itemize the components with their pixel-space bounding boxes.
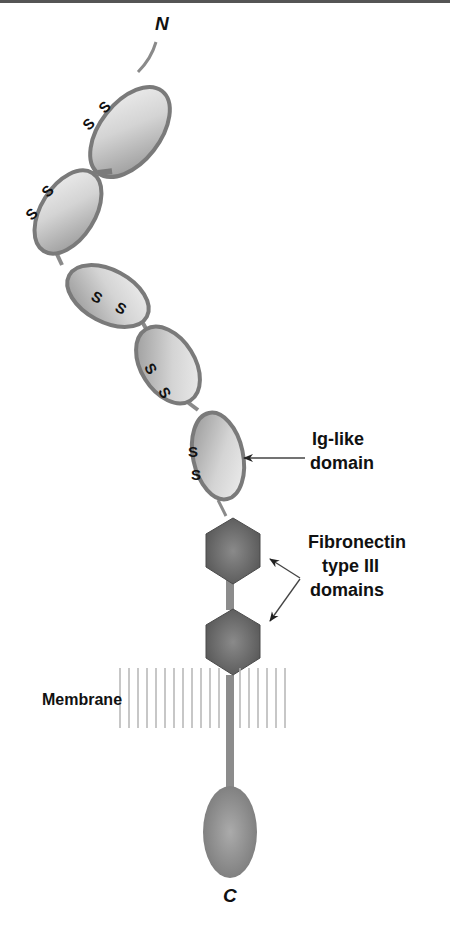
receptor-diagram: N S S S S S S S S S S Ig-like domain xyxy=(0,0,450,933)
ig-domain-4 xyxy=(123,315,213,415)
cytoplasmic-domain xyxy=(203,786,257,878)
n-terminus-label: N xyxy=(155,13,170,34)
fn-label-line3: domains xyxy=(310,580,384,600)
ig-like-label-line1: Ig-like xyxy=(312,429,364,449)
top-rule xyxy=(0,0,450,3)
n-terminal-tail xyxy=(138,42,156,72)
disulfide-s: S xyxy=(191,466,201,483)
fn-arrow-1 xyxy=(270,559,300,578)
membrane-label: Membrane xyxy=(42,691,122,708)
fibronectin-domain-2 xyxy=(206,609,260,675)
stalk xyxy=(226,580,234,610)
c-terminus-label: C xyxy=(223,885,237,906)
ig-like-label-line2: domain xyxy=(310,453,374,473)
fn-label-line1: Fibronectin xyxy=(308,532,406,552)
linker xyxy=(218,500,226,516)
fibronectin-domain-1 xyxy=(206,518,260,584)
membrane xyxy=(120,668,285,728)
disulfide-s: S xyxy=(188,443,198,460)
fn-arrow-2 xyxy=(270,579,300,621)
fn-label-line2: type III xyxy=(322,556,379,576)
